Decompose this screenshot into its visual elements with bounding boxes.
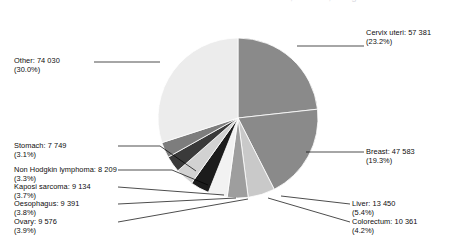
- label-cervix-uteri-percent: (23.2%): [366, 37, 431, 46]
- label-ovary: Ovary: 9 576 (3.9%): [14, 217, 57, 235]
- label-stomach: Stomach: 7 749 (3.1%): [14, 141, 66, 159]
- label-breast-value: Breast: 47 583: [366, 147, 415, 156]
- label-colorectum-value: Colorectum: 10 361: [352, 217, 417, 226]
- label-other: Other: 74 030 (30.0%): [14, 56, 60, 74]
- label-oesophagus-value: Oesophagus: 9 391: [14, 199, 79, 208]
- leader-oesophagus: [118, 198, 236, 204]
- label-stomach-value: Stomach: 7 749: [14, 141, 66, 150]
- label-breast: Breast: 47 583 (19.3%): [366, 147, 415, 165]
- label-breast-percent: (19.3%): [366, 156, 415, 165]
- label-ovary-value: Ovary: 9 576: [14, 217, 57, 226]
- label-cervix-uteri: Cervix uteri: 57 381 (23.2%): [366, 28, 431, 46]
- label-liver: Liver: 13 450 (5.4%): [352, 199, 395, 217]
- chart-canvas: Estimated cancer incidence in Eastern Af…: [0, 0, 470, 251]
- leader-liver: [281, 196, 350, 204]
- label-other-percent: (30.0%): [14, 65, 60, 74]
- label-other-value: Other: 74 030: [14, 56, 60, 65]
- label-oesophagus: Oesophagus: 9 391 (3.8%): [14, 199, 79, 217]
- label-stomach-percent: (3.1%): [14, 150, 66, 159]
- label-non-hodgkin-lymphoma: Non Hodgkin lymphoma: 8 209 (3.3%): [14, 165, 117, 183]
- label-non-hodgkin-lymphoma-value: Non Hodgkin lymphoma: 8 209: [14, 165, 117, 174]
- label-ovary-percent: (3.9%): [14, 226, 57, 235]
- label-colorectum-percent: (4.2%): [352, 226, 417, 235]
- pie-slice-cervix-uteri: [238, 38, 318, 118]
- label-kaposi-sarcoma-value: Kaposi sarcoma: 9 134: [14, 182, 91, 191]
- leader-colorectum: [268, 198, 350, 222]
- leader-ovary: [118, 199, 248, 222]
- label-liver-value: Liver: 13 450: [352, 199, 395, 208]
- label-cervix-uteri-value: Cervix uteri: 57 381: [366, 28, 431, 37]
- label-kaposi-sarcoma: Kaposi sarcoma: 9 134 (3.7%): [14, 182, 91, 200]
- label-colorectum: Colorectum: 10 361 (4.2%): [352, 217, 417, 235]
